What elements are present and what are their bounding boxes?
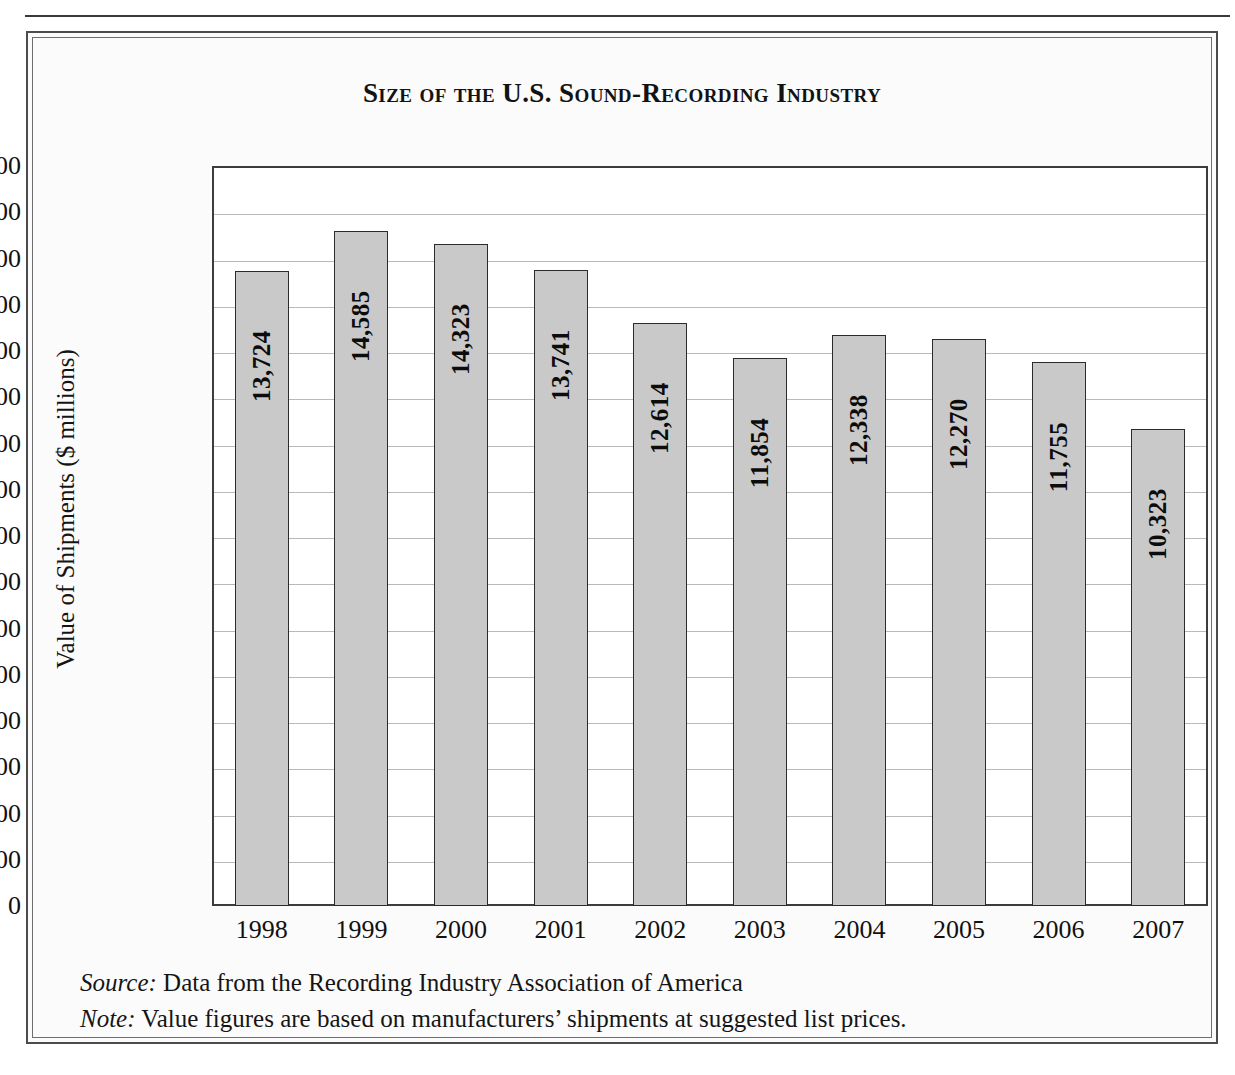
bar-value-label: 11,755	[1045, 422, 1073, 492]
bar: 14,323	[434, 244, 488, 906]
bar-value-label: 14,323	[447, 303, 475, 375]
bar-value-wrap: 13,741	[535, 271, 587, 441]
note-text: Value figures are based on manufacturers…	[136, 1005, 907, 1032]
bar-value-label: 12,614	[646, 382, 674, 454]
bar-value-label: 13,724	[248, 330, 276, 402]
bar-value-wrap: 14,585	[335, 232, 387, 402]
bar: 12,338	[832, 335, 886, 906]
x-axis-tick-label: 2000	[435, 915, 487, 945]
bar-value-wrap: 12,270	[933, 340, 985, 510]
y-axis-tick-label: 5,000	[0, 660, 21, 690]
bar: 12,614	[633, 323, 687, 906]
bar: 13,741	[534, 270, 588, 906]
note-line: Note: Value figures are based on manufac…	[80, 1001, 1210, 1037]
x-axis-tick-label: 1998	[236, 915, 288, 945]
note-label: Note:	[80, 1005, 136, 1032]
bar-value-wrap: 14,323	[435, 245, 487, 415]
bar: 12,270	[932, 339, 986, 906]
bar: 13,724	[235, 271, 289, 906]
source-label: Source:	[80, 969, 157, 996]
y-axis-title: Value of Shipments ($ millions)	[52, 299, 80, 719]
bar-value-wrap: 10,323	[1132, 430, 1184, 600]
source-text: Data from the Recording Industry Associa…	[157, 969, 743, 996]
source-line: Source: Data from the Recording Industry…	[80, 965, 1210, 1001]
y-axis-tick-label: 7,000	[0, 567, 21, 597]
bar-value-label: 14,585	[347, 291, 375, 363]
y-axis-tick-label: 6,000	[0, 614, 21, 644]
bar-value-label: 10,323	[1144, 488, 1172, 560]
y-axis-tick-label: 14,000	[0, 244, 21, 274]
y-axis-tick-label: 9,000	[0, 475, 21, 505]
bar: 10,323	[1131, 429, 1185, 906]
bar-value-wrap: 11,854	[734, 359, 786, 529]
bar: 11,854	[733, 358, 787, 906]
bar-value-label: 12,270	[945, 398, 973, 470]
y-axis-tick-label: 8,000	[0, 521, 21, 551]
x-axis-tick-label: 1999	[335, 915, 387, 945]
y-axis-tick-label: 10,000	[0, 429, 21, 459]
y-axis-tick-label: 1,000	[0, 845, 21, 875]
y-axis-tick-label: 11,000	[0, 382, 21, 412]
bar-value-wrap: 12,338	[833, 336, 885, 506]
bar: 11,755	[1032, 362, 1086, 906]
page-top-rule	[25, 15, 1230, 17]
bar-value-label: 12,338	[845, 395, 873, 467]
bar-value-wrap: 13,724	[236, 272, 288, 442]
y-axis-tick-label: 12,000	[0, 336, 21, 366]
x-axis-tick-label: 2006	[1033, 915, 1085, 945]
y-axis-tick-label: 0	[0, 891, 21, 921]
bars-layer: 13,72414,58514,32313,74112,61411,85412,3…	[212, 166, 1208, 906]
y-axis-tick-label: 3,000	[0, 752, 21, 782]
figure-frame: Size of the U.S. Sound-Recording Industr…	[26, 31, 1218, 1044]
x-axis-tick-label: 2007	[1132, 915, 1184, 945]
bar-value-wrap: 11,755	[1033, 363, 1085, 533]
bar: 14,585	[334, 231, 388, 906]
figure-footnotes: Source: Data from the Recording Industry…	[80, 965, 1210, 1036]
x-axis-tick-label: 2002	[634, 915, 686, 945]
bar-value-label: 11,854	[746, 418, 774, 488]
y-axis-tick-label: 2,000	[0, 799, 21, 829]
y-axis-tick-label: 4,000	[0, 706, 21, 736]
x-axis-tick-label: 2003	[734, 915, 786, 945]
bar-value-label: 13,741	[547, 330, 575, 402]
chart-title: Size of the U.S. Sound-Recording Industr…	[28, 78, 1216, 109]
x-axis-tick-label: 2005	[933, 915, 985, 945]
y-axis-tick-label: 16,000	[0, 151, 21, 181]
y-axis-tick-label: 15,000	[0, 197, 21, 227]
x-axis-tick-label: 2001	[535, 915, 587, 945]
y-axis-tick-label: 13,000	[0, 290, 21, 320]
bar-value-wrap: 12,614	[634, 324, 686, 494]
x-axis-tick-labels: 1998199920002001200220032004200520062007	[212, 915, 1208, 955]
x-axis-tick-label: 2004	[833, 915, 885, 945]
